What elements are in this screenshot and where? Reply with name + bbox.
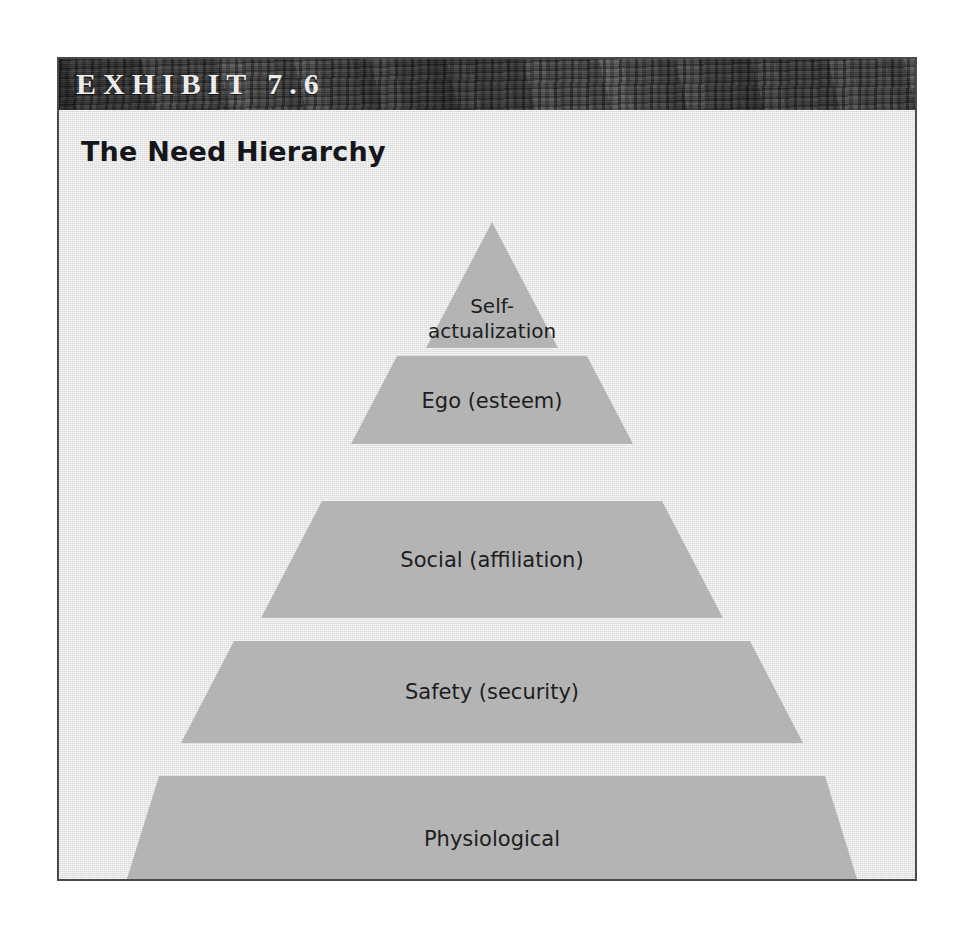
need-hierarchy-pyramid: Self- actualization Ego (esteem) Social …	[59, 110, 915, 881]
pyramid-tier-physiological: Physiological	[120, 776, 864, 881]
pyramid-tier-label: Physiological	[424, 827, 560, 851]
pyramid-tier-label-line1: Self-	[470, 294, 514, 318]
exhibit-number-label: EXHIBIT 7.6	[76, 67, 326, 101]
exhibit-body-panel: The Need Hierarchy Self- actualization E…	[59, 110, 915, 879]
pyramid-tier-safety-security: Safety (security)	[181, 641, 803, 743]
pyramid-tier-label: Social (affiliation)	[400, 548, 583, 572]
pyramid-tier-label-line2: actualization	[428, 319, 556, 343]
exhibit-header-band: EXHIBIT 7.6	[59, 59, 915, 110]
pyramid-tier-label: Ego (esteem)	[422, 389, 563, 413]
exhibit-figure: EXHIBIT 7.6 The Need Hierarchy Self- act…	[57, 57, 917, 881]
pyramid-tier-label: Safety (security)	[405, 680, 579, 704]
pyramid-tier-self-actualization: Self- actualization	[426, 222, 558, 348]
pyramid-tier-ego-esteem: Ego (esteem)	[351, 356, 633, 444]
pyramid-tier-social-affiliation: Social (affiliation)	[261, 501, 723, 618]
